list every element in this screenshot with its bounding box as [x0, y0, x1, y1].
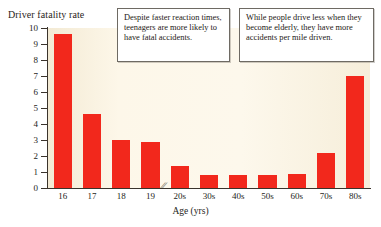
bar-18: [112, 140, 130, 188]
y-axis-tick: [41, 60, 48, 61]
x-axis-tick-label: 16: [48, 191, 77, 202]
bar-17: [83, 114, 101, 188]
y-axis-tick-label: 3: [16, 136, 38, 145]
y-axis-tick-label: 6: [16, 88, 38, 97]
bar-30s: [200, 175, 218, 188]
driver-fatality-rate-chart: Driver fatality rate Driver fatalities (…: [0, 0, 381, 227]
x-axis-tick-label: 17: [77, 191, 106, 202]
x-axis-line: [47, 188, 371, 189]
annotation-teen-drivers: Despite faster reaction times, teenagers…: [117, 8, 230, 62]
x-axis-tick-label: 70s: [311, 191, 340, 202]
y-axis-tick: [41, 44, 48, 45]
y-axis-tick-labels: 109876543210: [14, 0, 38, 227]
bar-70s: [317, 153, 335, 188]
y-axis-tick-label: 7: [16, 72, 38, 81]
y-axis-tick: [41, 140, 48, 141]
bar-40s: [229, 175, 247, 188]
x-axis-tick-label: 60s: [282, 191, 311, 202]
y-axis-tick: [41, 188, 48, 189]
y-axis-tick: [41, 124, 48, 125]
x-axis-tick-label: 30s: [194, 191, 223, 202]
x-axis-tick-label: 80s: [341, 191, 370, 202]
bar-16: [54, 34, 72, 188]
y-axis-tick: [41, 172, 48, 173]
y-axis-tick: [41, 92, 48, 93]
x-axis-tick-label: 19: [136, 191, 165, 202]
y-axis-tick-label: 5: [16, 104, 38, 113]
y-axis-tick: [41, 156, 48, 157]
y-axis-tick: [41, 28, 48, 29]
x-axis-tick-labels: 1617181920s30s40s50s60s70s80s: [48, 191, 370, 205]
x-axis-tick-label: 50s: [253, 191, 282, 202]
y-axis-tick-label: 1: [16, 168, 38, 177]
y-axis-tick-label: 8: [16, 56, 38, 65]
y-axis-tick: [41, 76, 48, 77]
bar-50s: [258, 175, 276, 188]
y-axis-tick-label: 0: [16, 184, 38, 193]
y-axis-tick-label: 9: [16, 40, 38, 49]
bar-60s: [288, 174, 306, 188]
x-axis-tick-label: 20s: [165, 191, 194, 202]
x-axis-label: Age (yrs): [0, 206, 381, 216]
y-axis-tick-label: 4: [16, 120, 38, 129]
y-axis-tick: [41, 108, 48, 109]
bar-19: [141, 142, 159, 188]
x-axis-tick-label: 18: [107, 191, 136, 202]
bar-20s: [171, 166, 189, 188]
annotation-elderly-drivers: While people drive less when they become…: [239, 8, 374, 62]
y-axis-tick-label: 10: [16, 24, 38, 33]
bar-80s: [346, 76, 364, 188]
x-axis-tick-label: 40s: [224, 191, 253, 202]
y-axis-tick-label: 2: [16, 152, 38, 161]
